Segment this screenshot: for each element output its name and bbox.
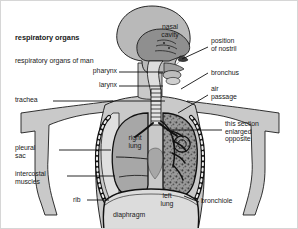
diaphragm-shape xyxy=(103,189,198,229)
label-intercostal-muscles: intercostal muscles xyxy=(15,170,46,185)
trachea-shape xyxy=(151,89,161,125)
label-nasal-cavity: nasal cavity xyxy=(153,23,187,38)
figure-panel: respiratory organs respiratory organs of… xyxy=(0,0,298,229)
label-rib: rib xyxy=(73,196,81,204)
label-pleural-sac: pleural sac xyxy=(15,144,35,159)
label-left-lung: left lung xyxy=(153,192,181,207)
label-trachea: trachea xyxy=(15,96,38,104)
label-position-of-nostril: position of nostril xyxy=(211,37,237,52)
label-right-lung: right lung xyxy=(121,134,149,149)
label-this-section-enlarged-opposite: this section enlarged opposite xyxy=(225,120,259,143)
label-diaphragm: diaphragm xyxy=(113,211,145,219)
figure-caption: respiratory organs of man xyxy=(15,57,94,65)
label-bronchiole: bronchiole xyxy=(201,197,232,205)
figure-title: respiratory organs xyxy=(15,34,79,42)
label-larynx: larynx xyxy=(53,81,117,89)
label-air-passage: air passage xyxy=(211,85,237,100)
label-pharynx: pharynx xyxy=(53,67,117,75)
label-bronchus: bronchus xyxy=(211,69,239,77)
